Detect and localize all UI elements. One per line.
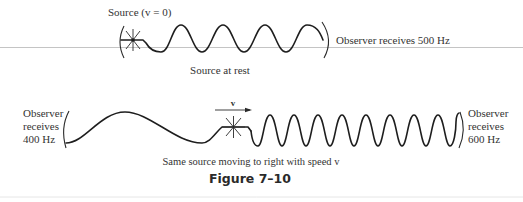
right-observer-line1: Observer: [468, 107, 509, 119]
velocity-label: v: [231, 98, 236, 108]
moving-source-caption: Same source moving to right with speed v: [162, 156, 340, 167]
figure-caption: Figure 7–10: [209, 171, 291, 186]
right-observer-line3: 600 Hz: [468, 133, 500, 145]
doppler-effect-figure: Source (v = 0) Observer receives 500 Hz …: [0, 0, 523, 202]
source-at-rest-label: Source (v = 0): [108, 6, 172, 19]
observer-500hz-label: Observer receives 500 Hz: [336, 34, 450, 46]
compressed-wave: [251, 113, 459, 146]
source-at-rest-caption: Source at rest: [190, 64, 250, 76]
moving-source-star-icon: [222, 116, 245, 138]
left-observer-line3: 400 Hz: [23, 133, 55, 145]
right-observer-line2: receives: [468, 120, 504, 132]
bottom-panel: Observer receives 400 Hz v Observer rece…: [23, 98, 509, 167]
left-observer-line2: receives: [23, 120, 59, 132]
top-panel: Source (v = 0) Observer receives 500 Hz …: [108, 6, 450, 76]
velocity-arrow-icon: [215, 108, 252, 112]
left-wavefront-bracket: [120, 26, 124, 58]
left-observer-line1: Observer: [23, 107, 64, 119]
stretched-wave: [66, 112, 251, 143]
right-observer-bracket: [459, 112, 463, 148]
